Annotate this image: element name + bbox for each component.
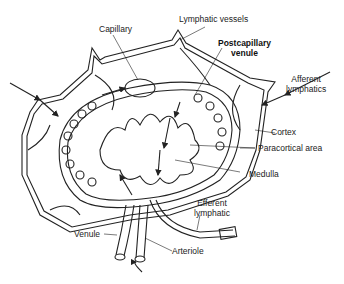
- label-afferent-lymphatics: Afferent lymphatics: [286, 74, 326, 94]
- label-medulla: Medulla: [249, 169, 279, 179]
- cortex-boundary: [59, 82, 240, 207]
- label-paracortical-area: Paracortical area: [258, 143, 322, 153]
- label-postcapillary-venule: Postcapillary venule: [218, 38, 271, 58]
- venule: [116, 205, 134, 256]
- label-efferent-line2: lymphatic: [194, 208, 230, 218]
- label-cortex: Cortex: [271, 127, 296, 137]
- medulla-cords: [100, 114, 199, 184]
- label-afferent-line2: lymphatics: [286, 84, 326, 94]
- label-postcapillary-venule-line1: Postcapillary: [218, 38, 271, 48]
- label-efferent-lymphatic: Efferent lymphatic: [194, 198, 230, 218]
- capsule-outer: [22, 30, 275, 232]
- label-efferent-line1: Efferent: [194, 198, 230, 208]
- cortex-cells: [62, 94, 226, 186]
- label-venule: Venule: [74, 229, 100, 239]
- label-postcapillary-venule-line2: venule: [218, 48, 271, 58]
- label-afferent-line1: Afferent: [286, 74, 326, 84]
- label-arteriole: Arteriole: [172, 246, 204, 256]
- label-lymphatic-vessels: Lymphatic vessels: [179, 14, 248, 24]
- lymph-node-diagram: [0, 0, 344, 284]
- label-capillary: Capillary: [99, 24, 132, 34]
